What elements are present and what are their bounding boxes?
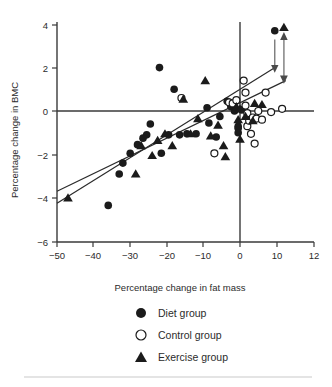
filled-circle-icon [136,308,146,318]
legend-label-control-group: Control group [158,329,222,341]
data-point-open-circle [258,116,265,123]
scatter-plot-figure: Percentage change in BMC 4 2 0 −2 −4 −6 [0,0,332,387]
data-point-open-circle [211,150,218,157]
data-point-open-circle [262,89,269,96]
data-point-filled-circle [126,150,134,158]
x-tick-label-12: 12 [309,250,320,261]
data-point-filled-circle [104,202,112,210]
filled-triangle-icon [135,352,147,363]
legend-label-exercise-group: Exercise group [158,351,228,363]
legend-item-diet-group: Diet group [136,307,207,319]
data-point-filled-triangle [200,76,210,84]
y-tick-label-m6: −6 [37,237,48,248]
y-tick-label-2: 2 [43,63,48,74]
legend-item-control-group: Control group [136,329,222,341]
data-point-filled-circle [158,150,166,158]
data-point-open-circle [247,130,254,137]
data-point-filled-triangle [213,121,223,129]
y-tick-label-m2: −2 [37,150,48,161]
x-tick-label-m10: −10 [195,250,211,261]
data-point-open-circle [255,108,262,115]
x-axis-title: Percentage change in fat mass [115,282,246,293]
x-tick-label-m30: −30 [122,250,138,261]
y-tick-label-4: 4 [43,20,48,31]
annotations-layer [275,36,284,79]
data-point-filled-circle [115,170,123,178]
legend-label-diet-group: Diet group [158,307,207,319]
data-point-open-circle [251,140,258,147]
data-point-filled-circle [234,129,242,137]
data-point-open-circle [268,109,275,116]
chart-legend: Diet group Control group Exercise group [135,307,228,363]
x-tick-label-m50: −50 [49,250,65,261]
data-point-filled-circle [203,104,211,112]
legend-item-exercise-group: Exercise group [135,351,228,363]
open-circle-icon [136,330,146,340]
data-point-filled-circle [147,120,155,128]
data-point-filled-circle [216,113,224,121]
data-point-open-circle [242,89,249,96]
data-point-filled-circle [205,119,213,127]
data-point-open-circle [240,77,247,84]
data-point-filled-triangle [131,169,141,177]
data-point-filled-triangle [147,151,157,159]
data-point-filled-triangle [221,152,231,160]
data-point-filled-circle [176,131,184,139]
data-point-filled-circle [156,64,164,72]
y-axis-ticks: 4 2 0 −2 −4 −6 [37,20,57,248]
data-point-filled-triangle [257,100,267,108]
x-tick-label-m20: −20 [159,250,175,261]
x-tick-label-0: 0 [237,250,242,261]
data-point-filled-circle [119,159,127,167]
data-points-layer [63,23,289,209]
data-point-filled-triangle [167,141,177,149]
y-tick-label-0: 0 [43,106,48,117]
data-point-filled-circle [143,131,151,139]
data-point-filled-circle [271,27,279,35]
y-tick-label-m4: −4 [37,193,48,204]
data-point-filled-triangle [279,23,289,31]
x-tick-label-10: 10 [272,250,283,261]
chart-svg: Percentage change in BMC 4 2 0 −2 −4 −6 [0,0,332,387]
data-point-filled-triangle [250,99,260,107]
data-point-filled-triangle [219,141,229,149]
y-axis-title: Percentage change in BMC [9,82,20,198]
x-axis-ticks: −50 −40 −30 −20 −10 0 10 12 [49,242,319,261]
data-point-open-circle [279,105,286,112]
x-tick-label-m40: −40 [85,250,101,261]
data-point-filled-circle [170,86,178,94]
data-point-open-circle [242,102,249,109]
